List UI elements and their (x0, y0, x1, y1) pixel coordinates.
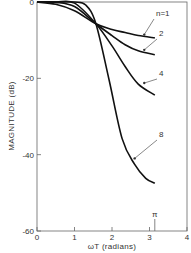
x-tick-label: 0 (35, 233, 40, 242)
y-tick-label: 0 (30, 0, 35, 7)
y-tick-label: -20 (22, 74, 34, 83)
y-tick-label: -40 (22, 151, 34, 160)
curve-n1 (37, 2, 155, 38)
y-axis: 0-20-40-60 (22, 0, 41, 236)
x-tick-label: 3 (147, 233, 152, 242)
curve-n4 (37, 1, 155, 95)
curve-n2 (37, 2, 155, 55)
x-tick-label: 2 (110, 233, 115, 242)
series-label-n8: 8 (159, 130, 164, 139)
magnitude-response-chart: 0-20-40-60 01234π n=1248 MAGNITUDE (dB) … (0, 0, 191, 253)
x-tick-label: 4 (185, 233, 190, 242)
series-label-n2: 2 (159, 29, 164, 38)
y-tick-label: -60 (22, 227, 34, 236)
x-axis: 01234π (35, 210, 190, 242)
x-tick-label: 1 (72, 233, 77, 242)
pi-marker-label: π (152, 210, 158, 219)
series-label-n4: 4 (159, 69, 164, 78)
series-label-n1: n=1 (156, 9, 170, 18)
x-axis-title: ωT (radians) (88, 242, 136, 251)
y-axis-title: MAGNITUDE (dB) (7, 81, 16, 151)
